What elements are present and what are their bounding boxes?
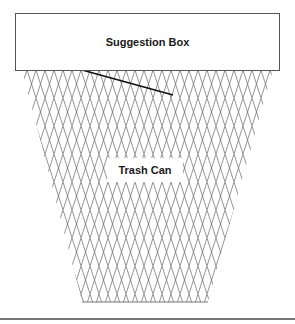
trash-can-label: Trash Can bbox=[118, 164, 171, 176]
trash-can bbox=[22, 70, 273, 302]
suggestion-box: Suggestion Box bbox=[15, 13, 280, 71]
suggestion-box-label: Suggestion Box bbox=[106, 36, 190, 48]
horizontal-rule bbox=[0, 318, 295, 320]
trash-can-label-box: Trash Can bbox=[107, 158, 183, 182]
trash-can-mesh bbox=[22, 70, 273, 302]
